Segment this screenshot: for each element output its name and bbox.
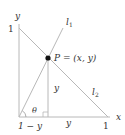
point-p-label: P = (x, y) bbox=[53, 53, 97, 63]
line-l1 bbox=[19, 28, 63, 117]
angle-label: θ bbox=[32, 106, 37, 115]
bottom-right-label: y bbox=[65, 118, 72, 128]
vertical-segment-label: y bbox=[53, 83, 60, 93]
line-l2 bbox=[19, 28, 108, 117]
l1-label: l1 bbox=[66, 17, 73, 28]
x-axis-label: x bbox=[116, 112, 121, 122]
point-p bbox=[45, 55, 50, 60]
bottom-left-label: 1 − y bbox=[18, 121, 43, 131]
angle-arc bbox=[22, 111, 26, 117]
y-axis-label: y bbox=[14, 11, 21, 21]
l2-label: l2 bbox=[92, 87, 99, 98]
x-tick-label: 1 bbox=[103, 121, 109, 131]
geometry-diagram: y 1 x 1 P = (x, y) l1 l2 y θ 1 − y y bbox=[0, 0, 125, 135]
l1-subscript: 1 bbox=[69, 21, 73, 28]
l2-subscript: 2 bbox=[95, 91, 99, 98]
y-tick-label: 1 bbox=[8, 24, 14, 34]
right-angle-marker bbox=[43, 112, 48, 117]
